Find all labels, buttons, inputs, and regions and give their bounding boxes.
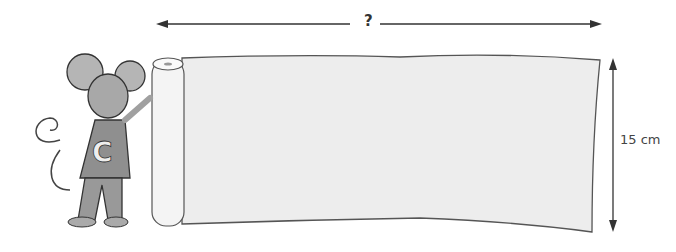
height-arrow: [609, 58, 617, 232]
paper-sheet: [182, 55, 600, 232]
width-arrow: [156, 20, 602, 28]
paper-roll: [152, 58, 184, 226]
diagram-canvas: C: [0, 0, 676, 252]
width-unknown-label: ?: [360, 12, 377, 30]
height-label: 15 cm: [620, 132, 661, 147]
mouse-character: C: [36, 54, 150, 227]
svg-text:C: C: [92, 136, 113, 169]
